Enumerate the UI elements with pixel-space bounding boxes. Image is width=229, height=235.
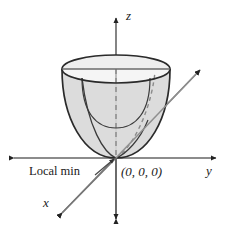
local-min-leader — [95, 159, 114, 175]
local-min-label: Local min — [29, 164, 81, 178]
z-axis-label: z — [125, 8, 131, 23]
figure-canvas: z y x (0, 0, 0) Local min — [0, 0, 229, 235]
local-min-leader-line — [95, 159, 114, 175]
origin-label: (0, 0, 0) — [121, 164, 162, 179]
x-axis-label: x — [42, 195, 49, 210]
y-axis-label: y — [204, 163, 212, 178]
paraboloid-figure: z y x (0, 0, 0) Local min — [0, 0, 229, 235]
paraboloid-surface — [62, 55, 170, 158]
